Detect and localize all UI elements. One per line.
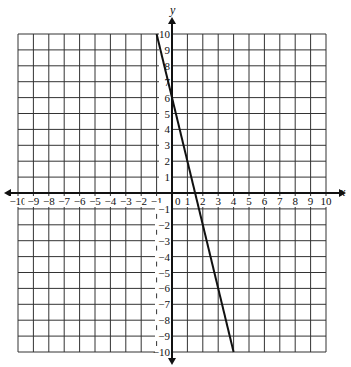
- x-tick-label: −2: [135, 195, 147, 207]
- y-tick-label: −5: [158, 267, 170, 279]
- y-tick-label: 9: [165, 44, 171, 56]
- y-tick-label: 6: [165, 92, 171, 104]
- y-tick-label: 5: [165, 108, 171, 120]
- y-tick-label: −1: [158, 203, 170, 215]
- x-tick-label: 2: [200, 195, 206, 207]
- y-tick-label: −7: [158, 298, 170, 310]
- y-tick-label: −9: [158, 330, 170, 342]
- y-tick-label: −4: [158, 251, 170, 263]
- x-tick-label: −6: [74, 195, 86, 207]
- x-tick-label: −9: [28, 195, 40, 207]
- y-tick-label: −2: [158, 219, 170, 231]
- x-tick-label: 10: [321, 195, 333, 207]
- y-tick-label: 1: [165, 171, 171, 183]
- x-tick-label: 0: [175, 195, 181, 207]
- y-axis-label: y: [169, 3, 176, 17]
- y-tick-label: −3: [158, 235, 170, 247]
- x-tick-label: 4: [231, 195, 237, 207]
- y-tick-label: 2: [165, 155, 171, 167]
- x-tick-label: −3: [120, 195, 132, 207]
- x-tick-label: −8: [43, 195, 55, 207]
- x-tick-label: −4: [105, 195, 117, 207]
- y-axis-down-arrow-icon: [168, 358, 176, 365]
- x-axis-label: x: [339, 185, 346, 199]
- x-tick-label: 9: [308, 195, 314, 207]
- y-axis-up-arrow-icon: [168, 17, 176, 24]
- x-tick-label: 7: [277, 195, 283, 207]
- x-tick-label: 8: [292, 195, 298, 207]
- x-tick-label: 5: [246, 195, 252, 207]
- x-tick-label: 1: [185, 195, 191, 207]
- y-tick-label: −6: [158, 282, 170, 294]
- coordinate-plane: −10−9−8−7−6−5−4−3−2−1012345678910−10−9−8…: [0, 0, 351, 367]
- y-tick-label: 3: [165, 139, 171, 151]
- x-tick-label: 3: [215, 195, 221, 207]
- x-tick-label: 6: [262, 195, 268, 207]
- x-tick-label: −5: [89, 195, 101, 207]
- y-tick-label: 4: [165, 123, 171, 135]
- x-tick-label: −7: [58, 195, 70, 207]
- y-tick-label: −8: [158, 314, 170, 326]
- y-tick-label: −10: [153, 346, 171, 358]
- y-tick-label: 10: [159, 28, 171, 40]
